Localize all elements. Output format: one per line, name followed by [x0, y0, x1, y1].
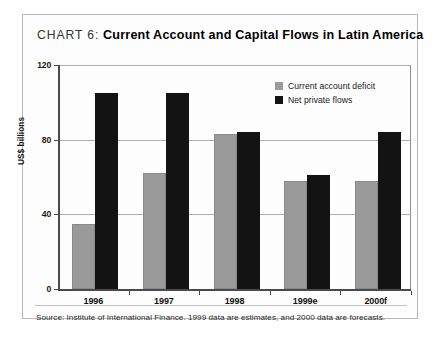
bar-1998-net-private-flows — [237, 132, 260, 289]
y-tick-label-120: 120 — [25, 60, 51, 70]
bar-1997-net-private-flows — [166, 93, 189, 289]
bar-1998-current-account-deficit — [214, 134, 237, 289]
x-tick-mark-2000f — [411, 291, 412, 295]
gridline-120 — [60, 65, 411, 66]
bar-2000f-net-private-flows — [378, 132, 401, 289]
source-divider — [35, 305, 407, 306]
legend-swatch-icon — [275, 96, 283, 104]
legend-label: Current account deficit — [288, 81, 375, 91]
chart-legend: Current account deficitNet private flows — [275, 81, 375, 109]
legend-item-net-private-flows: Net private flows — [275, 95, 375, 105]
y-tick-mark-40 — [54, 214, 58, 215]
y-tick-label-0: 0 — [25, 284, 51, 294]
x-tick-mark-1997 — [199, 291, 200, 295]
legend-item-current-account-deficit: Current account deficit — [275, 81, 375, 91]
bar-1996-net-private-flows — [95, 93, 118, 289]
bar-2000f-current-account-deficit — [355, 181, 378, 289]
x-tick-mark-1998 — [270, 291, 271, 295]
bar-1999e-net-private-flows — [307, 175, 330, 289]
y-tick-label-80: 80 — [25, 135, 51, 145]
chart-figure-frame: CHART 6: Current Account and Capital Flo… — [22, 14, 418, 319]
y-tick-label-40: 40 — [25, 209, 51, 219]
x-tick-mark-1996 — [129, 291, 130, 295]
bar-1997-current-account-deficit — [143, 173, 166, 289]
bar-1996-current-account-deficit — [72, 224, 95, 289]
chart-title-text: Current Account and Capital Flows in Lat… — [103, 28, 423, 42]
legend-swatch-icon — [275, 82, 283, 90]
legend-label: Net private flows — [288, 95, 352, 105]
y-axis-label: US$ billions — [17, 117, 26, 165]
chart-title: CHART 6: Current Account and Capital Flo… — [37, 28, 411, 42]
y-axis-line — [58, 65, 60, 291]
x-axis-line — [58, 289, 411, 291]
bar-1999e-current-account-deficit — [284, 181, 307, 289]
y-tick-mark-80 — [54, 140, 58, 141]
y-tick-mark-120 — [54, 65, 58, 66]
y-tick-mark-0 — [54, 289, 58, 290]
chart-number: CHART 6: — [37, 28, 99, 42]
x-tick-mark-1999e — [340, 291, 341, 295]
source-note: Source: Institute of International Finan… — [36, 313, 385, 322]
